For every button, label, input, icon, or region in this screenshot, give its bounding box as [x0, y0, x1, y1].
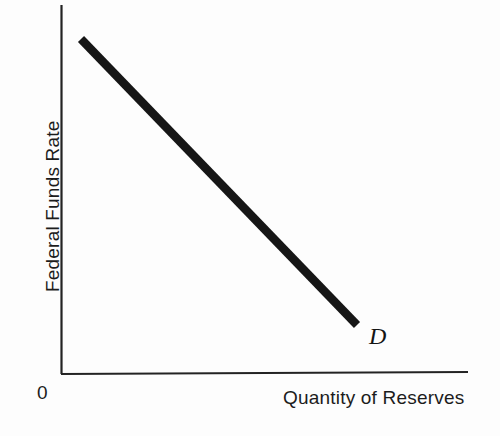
demand-curve-label: D [369, 324, 386, 348]
x-axis-label: Quantity of Reserves [283, 388, 464, 407]
plot-area [0, 0, 500, 436]
reserve-demand-figure: Federal Funds Rate Quantity of Reserves … [0, 0, 500, 436]
x-axis-line [61, 372, 468, 374]
y-axis-label: Federal Funds Rate [43, 52, 62, 292]
origin-label: 0 [37, 383, 48, 402]
demand-curve[interactable] [81, 39, 357, 325]
